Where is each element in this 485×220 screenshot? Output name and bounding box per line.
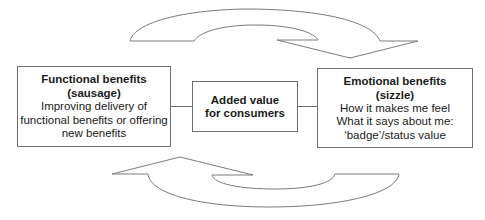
emotional-benefits-line: What it says about me: bbox=[337, 115, 454, 129]
connector-line-left bbox=[171, 106, 192, 107]
bottom-curved-arrow-icon bbox=[112, 157, 399, 207]
top-curved-arrow-icon bbox=[130, 9, 418, 58]
added-value-title: Added value for consumers bbox=[205, 94, 285, 120]
added-value-box: Added value for consumers bbox=[192, 81, 298, 132]
functional-benefits-box: Functional benefits (sausage) Improving … bbox=[17, 66, 171, 147]
functional-benefits-line: Improving delivery of bbox=[41, 100, 147, 114]
connector-line-right bbox=[298, 106, 317, 107]
functional-benefits-line: new benefits bbox=[62, 127, 127, 141]
emotional-benefits-line: ‘badge’/status value bbox=[344, 129, 446, 143]
emotional-benefits-title: Emotional benefits (sizzle) bbox=[335, 74, 455, 102]
emotional-benefits-box: Emotional benefits (sizzle) How it makes… bbox=[317, 68, 473, 148]
emotional-benefits-line: How it makes me feel bbox=[340, 102, 450, 116]
functional-benefits-line: functional benefits or offering bbox=[20, 114, 167, 128]
functional-benefits-title: Functional benefits (sausage) bbox=[39, 72, 149, 100]
